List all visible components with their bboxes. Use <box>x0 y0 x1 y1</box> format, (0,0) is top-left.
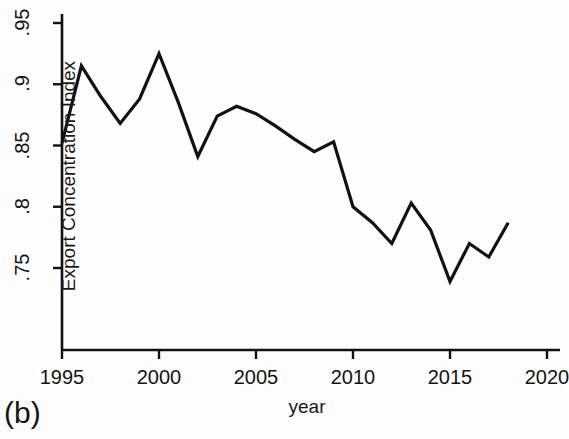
y-axis-title: Export Concentration Index <box>58 11 80 341</box>
x-tick-label: 2015 <box>428 366 473 389</box>
x-tick-label: 1995 <box>40 366 85 389</box>
x-tick-label: 2005 <box>234 366 279 389</box>
y-tick-label: .75 <box>11 240 34 296</box>
x-tick-label: 2000 <box>137 366 182 389</box>
y-tick-label: .85 <box>11 117 34 173</box>
panel-caption: (b) <box>4 398 41 428</box>
x-tick-label: 2020 <box>525 366 569 389</box>
chart-axes <box>62 14 560 350</box>
x-axis-title: year <box>62 396 552 418</box>
series-export-concentration-index <box>62 54 508 282</box>
y-tick-label: .8 <box>11 178 34 234</box>
y-tick-label: .9 <box>11 56 34 112</box>
y-tick-label: .95 <box>11 0 34 51</box>
chart-ticks <box>53 23 547 359</box>
x-tick-label: 2010 <box>331 366 376 389</box>
chart-series-line <box>62 54 508 282</box>
